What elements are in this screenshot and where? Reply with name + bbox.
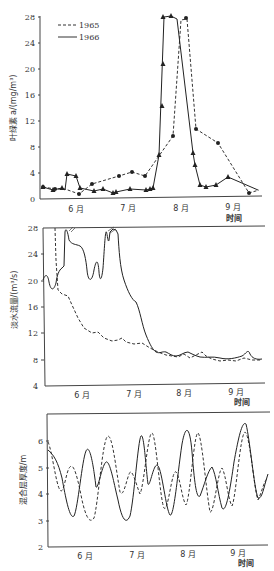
x-axis [48,545,268,547]
svg-text:2: 2 [38,543,43,552]
svg-text:8 月: 8 月 [173,204,189,213]
svg-text:16: 16 [25,91,35,100]
svg-text:28: 28 [25,13,35,22]
svg-text:5: 5 [38,464,43,473]
series-1966 [43,229,262,359]
svg-text:0: 0 [30,195,35,204]
svg-text:3: 3 [38,517,43,526]
series-1966-markers [41,13,231,195]
x-axis-label: 时间 [226,213,242,223]
y-ticks: 28 24 20 16 12 8 4 [28,224,44,391]
svg-text:24: 24 [28,250,38,259]
x-axis-label: 时间 [234,397,250,407]
svg-text:24: 24 [25,39,35,48]
mixed-layer-chart: 6 5 4 3 2 混合层厚度/m 6 月 7 月 8 月 9 月 时间 [18,412,270,568]
y-axis-label: 混合层厚度/m [18,455,28,506]
svg-text:8 月: 8 月 [176,389,192,398]
svg-text:9 月: 9 月 [228,388,244,397]
svg-text:8: 8 [30,143,35,152]
top-border [47,412,270,414]
svg-text:1966: 1966 [79,33,99,42]
svg-text:6 月: 6 月 [77,552,93,561]
svg-text:20: 20 [28,277,38,286]
series-1965 [55,228,262,361]
freshwater-flow-chart: 28 24 20 16 12 8 4 淡水流量/(m³/s) 6 月 7 月 8… [9,224,265,407]
svg-text:12: 12 [25,117,35,126]
x-ticks: 6 月 7 月 8 月 9 月 [77,549,246,561]
series-1966 [48,423,268,520]
x-ticks: 6 月 7 月 8 月 9 月 [74,388,244,400]
svg-text:4: 4 [38,490,43,499]
y-axis [47,414,48,547]
chart-figure: 28 24 20 16 12 8 4 0 叶绿素 a/(mg/m³) 6 月 7… [0,0,274,571]
svg-text:16: 16 [28,303,38,312]
svg-text:8: 8 [33,356,38,365]
svg-text:7 月: 7 月 [129,551,145,560]
series-1965 [43,19,259,194]
svg-text:7 月: 7 月 [120,204,136,213]
svg-text:20: 20 [25,65,35,74]
svg-text:4: 4 [33,382,38,391]
y-axis-label: 叶绿素 a/(mg/m³) [8,75,18,142]
svg-text:6 月: 6 月 [68,205,84,214]
svg-text:4: 4 [30,169,35,178]
svg-text:8 月: 8 月 [180,550,196,559]
svg-text:6: 6 [38,437,43,446]
y-axis-label: 淡水流量/(m³/s) [9,271,19,330]
svg-text:6 月: 6 月 [74,391,90,400]
x-axis [45,383,265,386]
svg-text:1965: 1965 [79,21,99,30]
y-ticks: 28 24 20 16 12 8 4 0 [25,13,40,204]
series-1966 [43,16,258,193]
svg-text:9 月: 9 月 [225,203,241,212]
top-border [43,226,265,228]
svg-text:7 月: 7 月 [126,390,142,399]
svg-text:9 月: 9 月 [230,549,246,558]
x-axis [40,196,262,199]
x-axis-label: 时间 [238,558,254,568]
x-ticks: 6 月 7 月 8 月 9 月 [68,203,241,214]
series-1965-markers [41,16,251,196]
svg-text:12: 12 [28,329,38,338]
legend: 1965 1966 [58,21,99,42]
chlorophyll-chart: 28 24 20 16 12 8 4 0 叶绿素 a/(mg/m³) 6 月 7… [8,13,262,223]
svg-text:28: 28 [28,224,38,233]
